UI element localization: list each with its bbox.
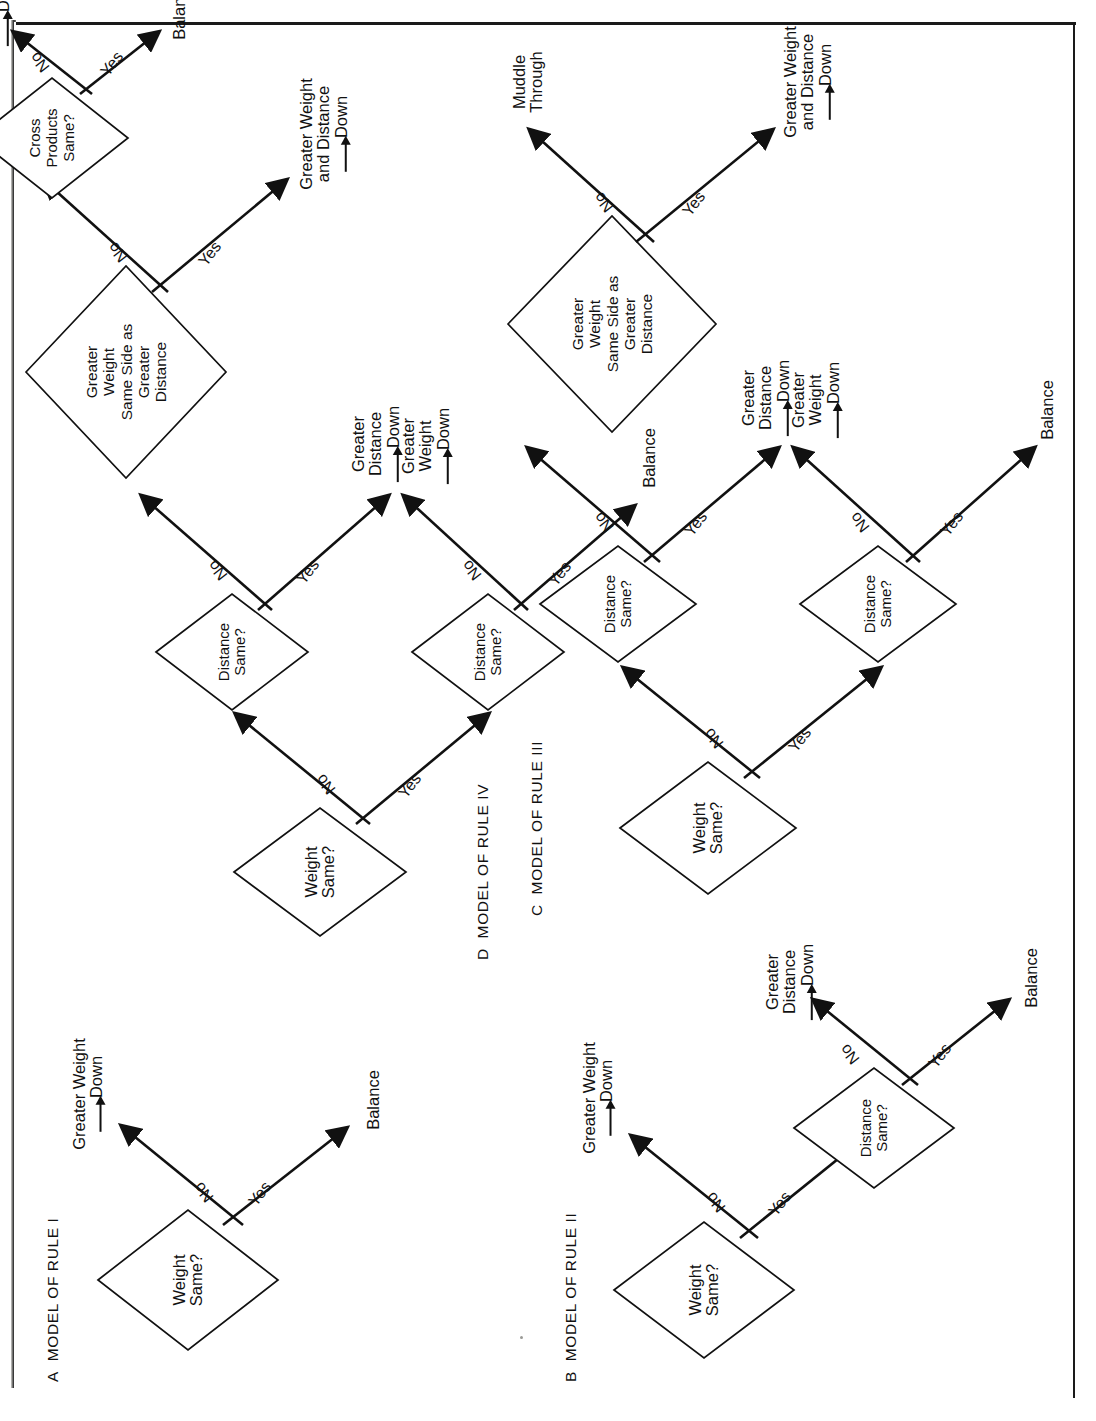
node-line-1: Distance	[861, 575, 878, 633]
terminal-line-1: Balance	[364, 1070, 382, 1130]
panel-b-terminal-greater-distance-down: Greater Distance Down	[764, 944, 816, 1020]
panel-d-terminal-greater-weight-and-distance-down: Greater Weight and Distance Down	[298, 78, 350, 190]
page-border-right	[1073, 22, 1075, 1398]
node-line-1: Distance	[471, 623, 488, 681]
node-line-4: Greater	[621, 298, 638, 351]
terminal-line-1: Greater	[349, 416, 367, 472]
down-arrow-icon	[787, 402, 789, 436]
node-line-2: Same?	[617, 580, 634, 628]
panel-a-node-root: Weight Same?	[171, 1254, 206, 1306]
node-line-1: Weight	[686, 1264, 704, 1315]
panel-c-terminal-greater-weight-and-distance-down: Greater Weight and Distance Down	[782, 26, 834, 138]
edge-dy-yes	[906, 450, 1032, 562]
terminal-down-label: Down	[434, 408, 452, 450]
edge-dn-no	[144, 498, 272, 610]
terminal-line-1: Greater	[739, 370, 757, 426]
terminal-down-label: Down	[87, 1056, 105, 1098]
panel-d-graph	[38, 30, 508, 960]
panel-c-node-root: Weight Same?	[691, 802, 726, 854]
terminal-line-2: Weight	[806, 374, 824, 425]
terminal-line-2: Distance	[756, 366, 774, 430]
down-arrow-icon	[100, 1098, 102, 1132]
node-line-1: Greater	[569, 298, 586, 351]
terminal-down-row: Down	[799, 944, 816, 1020]
node-line-3: Same Side as	[603, 276, 620, 373]
panel-d: D MODEL OF RULE IV	[38, 30, 508, 960]
panel-d-terminal-greater-weight-down: Greater Weight Down	[400, 408, 452, 484]
terminal-line-1: Balance	[1022, 948, 1040, 1008]
node-line-1: Distance	[215, 623, 232, 681]
terminal-down-label: Down	[798, 944, 816, 986]
panel-b-node-distance: Distance Same?	[858, 1099, 890, 1157]
node-line-1: Distance	[601, 575, 618, 633]
figure-plate: A MODEL OF RULE I Weight Same? Yes No Ba…	[0, 0, 1096, 1421]
terminal-down-row: Down	[598, 1042, 615, 1154]
panel-c-terminal-greater-weight-down: Greater Weight Down	[790, 362, 842, 438]
down-arrow-icon	[447, 450, 449, 484]
node-line-4: Greater	[135, 346, 152, 399]
down-arrow-icon	[345, 138, 347, 172]
edge-dn-yes	[644, 450, 776, 562]
panel-c-node-distance-yes: Distance Same?	[862, 575, 894, 633]
edge-root-yes	[356, 716, 486, 824]
panel-d-terminal-balance: Balance	[641, 428, 658, 488]
node-line-2: Same?	[231, 628, 248, 676]
panel-a-graph	[38, 1060, 508, 1390]
node-line-2: Weight	[586, 300, 603, 348]
down-arrow-icon	[7, 12, 9, 46]
figure-canvas: A MODEL OF RULE I Weight Same? Yes No Ba…	[38, 30, 1058, 1390]
down-arrow-icon	[837, 404, 839, 438]
node-line-1: Weight	[170, 1254, 188, 1305]
node-line-2: Same?	[707, 802, 725, 854]
terminal-line-1: Balance	[1038, 380, 1056, 440]
node-line-1: Distance	[857, 1099, 874, 1157]
panel-b-node-root: Weight Same?	[687, 1264, 722, 1316]
terminal-down-label: Down	[332, 96, 350, 138]
panel-a: A MODEL OF RULE I Weight Same? Yes No Ba…	[38, 1060, 508, 1390]
figure-rotation-wrapper: A MODEL OF RULE I Weight Same? Yes No Ba…	[38, 30, 1058, 1390]
terminal-down-row: Down	[825, 362, 842, 438]
panel-d-terminal-greater-product-down: Greater Product Down	[0, 0, 12, 46]
terminal-down-label: Down	[816, 44, 834, 86]
edge-distance-yes	[902, 1002, 1006, 1085]
node-line-2: Same?	[703, 1264, 721, 1316]
node-line-5: Distance	[152, 342, 169, 402]
terminal-down-row: Down	[775, 360, 792, 436]
node-line-2: Products	[43, 108, 60, 167]
panel-c-graph	[508, 30, 1058, 920]
panel-d-node-distance-no: Distance Same?	[216, 623, 248, 681]
terminal-down-row: Down	[0, 0, 12, 46]
panel-c-terminal-balance: Balance	[1039, 380, 1056, 440]
panel-c-terminal-greater-distance-down: Greater Distance Down	[740, 360, 792, 436]
panel-c: C MODEL OF RULE III	[508, 30, 1058, 920]
terminal-down-row: Down	[385, 406, 402, 482]
panel-d-terminal-balance-2: Balance	[171, 0, 188, 40]
down-arrow-icon	[610, 1102, 612, 1136]
edge-cf-no	[532, 132, 654, 242]
terminal-line-1: Balance	[170, 0, 188, 40]
panel-a-terminal-balance: Balance	[365, 1070, 382, 1130]
terminal-down-label: Down	[774, 360, 792, 402]
terminal-line-1: Greater Weight	[297, 78, 315, 190]
terminal-down-row: Down	[817, 26, 834, 138]
edge-root-no	[634, 1138, 758, 1238]
terminal-down-label: Down	[384, 406, 402, 448]
edge-dn-yes	[258, 498, 386, 610]
node-line-2: Weight	[100, 348, 117, 396]
panel-d-node-cross-products: Cross Products Same?	[27, 108, 77, 167]
panel-c-node-conflict: Greater Weight Same Side as Greater Dist…	[569, 276, 656, 373]
down-arrow-icon	[397, 448, 399, 482]
node-line-1: Weight	[302, 846, 320, 897]
node-line-2: Same?	[487, 628, 504, 676]
node-line-1: Cross	[26, 118, 43, 157]
edge-root-yes	[744, 670, 878, 778]
terminal-down-label: Down	[597, 1060, 615, 1102]
down-arrow-icon	[829, 86, 831, 120]
terminal-line-2: Weight	[416, 420, 434, 471]
node-line-1: Weight	[690, 802, 708, 853]
terminal-down-row: Down	[333, 78, 350, 190]
panel-d-node-root: Weight Same?	[303, 846, 338, 898]
node-line-1: Greater	[83, 346, 100, 399]
panel-b-terminal-balance: Balance	[1023, 948, 1040, 1008]
terminal-line-1: Greater Weight	[70, 1038, 88, 1150]
